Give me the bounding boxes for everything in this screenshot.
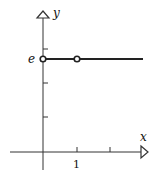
y-axis-label: y: [52, 6, 60, 20]
x-tick-label: 1: [73, 158, 80, 171]
y-axis-arrow-icon: [37, 11, 49, 18]
open-point-x0: [40, 56, 46, 62]
open-point-x1: [74, 56, 80, 62]
graph-canvas: y x e 1: [0, 0, 154, 176]
x-axis-label: x: [140, 130, 147, 144]
y-axis: [37, 11, 49, 170]
x-axis: [10, 146, 148, 158]
x-axis-arrow-icon: [141, 146, 148, 158]
y-value-label: e: [28, 52, 35, 66]
